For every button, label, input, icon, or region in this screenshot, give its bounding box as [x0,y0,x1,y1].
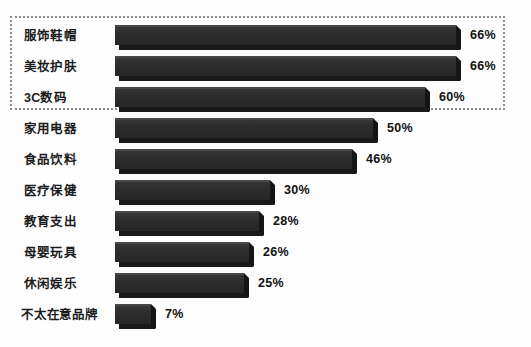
bar-top-bevel [115,242,249,244]
bar-shadow [119,45,460,50]
bar-side-face [456,56,461,81]
bar-face [115,211,259,231]
bar-row: 美妆护肤66% [0,55,531,86]
bar-row: 医疗保健30% [0,179,531,210]
bar-shadow [119,76,460,81]
bar-row-label: 美妆护肤 [0,55,96,79]
bar-shadow [119,169,356,174]
bar-shadow [119,293,248,298]
bar-row-label: 食品饮料 [0,148,96,172]
bar-value-label: 7% [165,303,184,325]
bar-row: 服饰鞋帽66% [0,24,531,55]
bar [115,211,259,237]
bar-side-face [456,25,461,50]
bar-value-label: 26% [263,241,289,263]
bar-face [115,87,425,107]
bar-row: 休闲娱乐25% [0,272,531,303]
bar-value-label: 46% [366,148,392,170]
bar-row-label: 服饰鞋帽 [0,24,96,48]
bar-top-bevel [115,118,373,120]
bar-face [115,25,456,45]
bar-shadow [119,107,429,112]
bar-side-face [259,211,264,236]
bar-chart: 服饰鞋帽66%美妆护肤66%3C数码60%家用电器50%食品饮料46%医疗保健3… [0,0,531,347]
bar-top-bevel [115,211,259,213]
bar-row: 母婴玩具26% [0,241,531,272]
bar-side-face [151,304,156,329]
bar-rows-container: 服饰鞋帽66%美妆护肤66%3C数码60%家用电器50%食品饮料46%医疗保健3… [0,0,531,347]
bar-shadow [119,138,377,143]
bar-face [115,149,352,169]
bar-row-label: 母婴玩具 [0,241,96,265]
bar-row-label: 医疗保健 [0,179,96,203]
bar-row: 食品饮料46% [0,148,531,179]
bar-row-label: 教育支出 [0,210,96,234]
bar-row: 3C数码60% [0,86,531,117]
bar-value-label: 50% [387,117,413,139]
bar [115,273,244,299]
bar-value-label: 28% [273,210,299,232]
bar-row: 教育支出28% [0,210,531,241]
bar-row: 家用电器50% [0,117,531,148]
bar-side-face [425,87,430,112]
bar-top-bevel [115,180,270,182]
bar-value-label: 66% [470,55,496,77]
bar-face [115,56,456,76]
bar-shadow [119,200,274,205]
bar [115,304,151,330]
bar-side-face [244,273,249,298]
bar-row: 不太在意品牌7% [0,303,531,334]
bar-value-label: 66% [470,24,496,46]
bar-row-label: 不太在意品牌 [0,303,112,327]
bar [115,25,456,51]
bar-row-label: 休闲娱乐 [0,272,96,296]
bar-value-label: 60% [439,86,465,108]
bar-face [115,273,244,293]
bar-face [115,118,373,138]
bar-top-bevel [115,25,456,27]
bar [115,149,352,175]
bar-top-bevel [115,87,425,89]
bar [115,118,373,144]
bar-top-bevel [115,273,244,275]
bar-row-label: 家用电器 [0,117,96,141]
bar-value-label: 25% [258,272,284,294]
bar [115,242,249,268]
bar-side-face [373,118,378,143]
bar [115,87,425,113]
bar-shadow [119,324,155,329]
bar-side-face [270,180,275,205]
bar-face [115,180,270,200]
bar [115,56,456,82]
bar-row-label: 3C数码 [0,86,96,110]
bar-top-bevel [115,56,456,58]
bar-side-face [249,242,254,267]
bar-value-label: 30% [284,179,310,201]
bar-face [115,242,249,262]
bar-top-bevel [115,149,352,151]
bar-face [115,304,151,324]
bar [115,180,270,206]
bar-shadow [119,231,263,236]
bar-shadow [119,262,253,267]
bar-side-face [352,149,357,174]
bar-top-bevel [115,304,151,306]
